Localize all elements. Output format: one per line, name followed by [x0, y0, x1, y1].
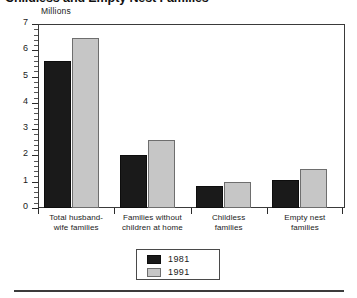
y-axis-minor-tick: [34, 45, 38, 46]
y-axis-minor-tick: [34, 82, 38, 83]
bar-1981: [272, 180, 299, 208]
chart-legend: 19811991: [136, 249, 220, 280]
y-axis: 01234567: [0, 24, 38, 208]
y-axis-tick-label: 6: [23, 44, 28, 53]
y-axis-tick-mark: [32, 103, 38, 104]
y-axis-minor-tick: [34, 124, 38, 125]
x-axis-category-label: Families withoutchildren at home: [114, 213, 190, 232]
bar-group: [272, 24, 327, 208]
category-label-line: Families without: [114, 213, 190, 223]
category-label-line: families: [191, 223, 267, 233]
y-axis-tick-mark: [32, 50, 38, 51]
y-axis-minor-tick: [34, 56, 38, 57]
y-axis-tick-mark: [32, 182, 38, 183]
x-axis-category-label: Childlessfamilies: [191, 213, 267, 232]
y-axis-tick-mark: [32, 129, 38, 130]
category-label-line: Total husband-: [38, 213, 114, 223]
y-axis-tick-mark: [32, 77, 38, 78]
x-axis-category-labels: Total husband-wife familiesFamilies with…: [38, 213, 345, 239]
y-axis-minor-tick: [34, 145, 38, 146]
bar-series-layer: [39, 24, 344, 208]
y-axis-minor-tick: [34, 108, 38, 109]
y-axis-minor-tick: [34, 140, 38, 141]
y-axis-minor-tick: [34, 176, 38, 177]
bar-1981: [196, 186, 223, 208]
legend-item-1991[interactable]: 1991: [147, 266, 219, 278]
y-axis-minor-tick: [34, 87, 38, 88]
y-axis-tick-label: 1: [23, 176, 28, 185]
y-axis-tick-label: 7: [23, 18, 28, 27]
y-axis-minor-tick: [34, 192, 38, 193]
y-axis-minor-tick: [34, 92, 38, 93]
category-label-line: children at home: [114, 223, 190, 233]
y-axis-tick-mark: [32, 24, 38, 25]
bar-group: [120, 24, 175, 208]
category-label-line: Empty nest: [267, 213, 343, 223]
bar-1991: [148, 140, 175, 208]
category-label-line: families: [267, 223, 343, 233]
legend-item-1981[interactable]: 1981: [147, 253, 219, 265]
y-axis-minor-tick: [34, 171, 38, 172]
bar-1981: [44, 61, 71, 208]
y-axis-tick-label: 0: [23, 202, 28, 211]
category-label-line: wife families: [38, 223, 114, 233]
bar-group: [44, 24, 99, 208]
y-axis-minor-tick: [34, 119, 38, 120]
bar-1991: [300, 169, 327, 208]
y-axis-minor-tick: [34, 113, 38, 114]
legend-item-label: 1991: [168, 268, 190, 277]
y-axis-tick-label: 2: [23, 149, 28, 158]
bar-group: [196, 24, 251, 208]
y-axis-tick-label: 4: [23, 97, 28, 106]
y-axis-minor-tick: [34, 134, 38, 135]
bar-1991: [224, 182, 251, 208]
y-axis-tick-label: 5: [23, 71, 28, 80]
legend-swatch-icon: [147, 268, 161, 277]
page-title: Childless and Empty Nest Families: [5, 0, 325, 5]
legend-swatch-icon: [147, 255, 161, 264]
bar-1981: [120, 155, 147, 208]
y-axis-minor-tick: [34, 203, 38, 204]
bar-1991: [72, 38, 99, 208]
y-axis-tick-mark: [32, 155, 38, 156]
y-axis-minor-tick: [34, 40, 38, 41]
footer-divider: [14, 290, 344, 292]
y-axis-minor-tick: [34, 98, 38, 99]
x-axis-category-label: Empty nestfamilies: [267, 213, 343, 232]
category-label-line: Childless: [191, 213, 267, 223]
y-axis-minor-tick: [34, 150, 38, 151]
legend-item-label: 1981: [168, 255, 190, 264]
y-axis-minor-tick: [34, 166, 38, 167]
y-axis-minor-tick: [34, 161, 38, 162]
y-axis-minor-tick: [34, 66, 38, 67]
y-axis-minor-tick: [34, 29, 38, 30]
y-axis-minor-tick: [34, 61, 38, 62]
y-axis-minor-tick: [34, 197, 38, 198]
x-axis-category-label: Total husband-wife families: [38, 213, 114, 232]
y-axis-minor-tick: [34, 187, 38, 188]
y-axis-minor-tick: [34, 71, 38, 72]
y-axis-unit-label: Millions: [41, 6, 71, 16]
y-axis-tick-label: 3: [23, 123, 28, 132]
y-axis-minor-tick: [34, 35, 38, 36]
